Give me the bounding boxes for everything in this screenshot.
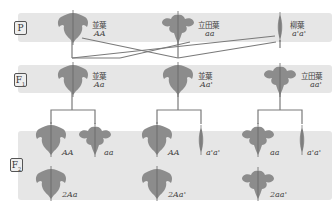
f1-genotype-1: Aa	[94, 80, 105, 89]
f2-g1-genotype-1: AA	[62, 148, 74, 157]
f2-g3-genotype-3: 2aa'	[270, 190, 287, 199]
f1-genotype-2: Aa'	[200, 80, 213, 89]
p-genotype-2: aa	[205, 29, 215, 38]
f2-g2-genotype-3: 2Aa'	[168, 190, 186, 199]
f1-plant-normal-leaf-icon-1	[57, 60, 89, 98]
f1-plant-tatsuta-leaf-icon	[264, 60, 296, 98]
f2-g3-genotype-2: a'a'	[307, 148, 321, 157]
p-plant-normal-leaf-icon	[57, 8, 89, 46]
p-plant-willow-leaf-icon	[272, 11, 288, 43]
f1-genotype-3: aa'	[310, 80, 322, 89]
f1-plant-normal-leaf-icon-2	[162, 60, 194, 98]
f2-g3-genotype-1: aa	[270, 148, 280, 157]
f2-g2-genotype-2: a'a'	[206, 148, 220, 157]
f2-g1-genotype-2: aa	[104, 148, 114, 157]
p-genotype-3: a'a'	[292, 29, 306, 38]
p-genotype-1: AA	[94, 29, 106, 38]
f2-g2-genotype-1: AA	[168, 148, 180, 157]
f2-g1-genotype-3: 2Aa	[62, 190, 78, 199]
p-plant-tatsuta-leaf-icon	[162, 8, 194, 46]
